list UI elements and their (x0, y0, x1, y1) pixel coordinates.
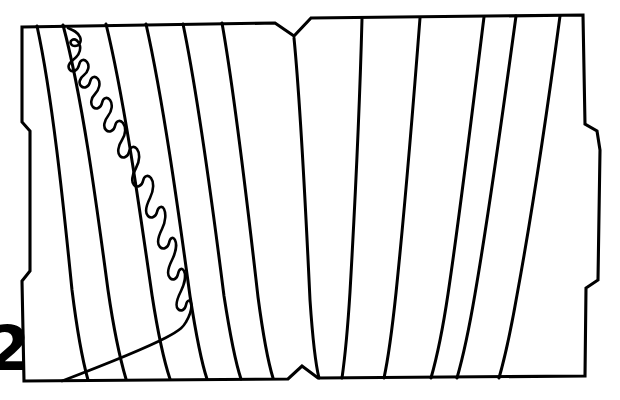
figure-number-label: 2 (0, 318, 30, 380)
figure-illustration: 2 (0, 0, 620, 400)
shell-drawing-svg (0, 0, 620, 400)
